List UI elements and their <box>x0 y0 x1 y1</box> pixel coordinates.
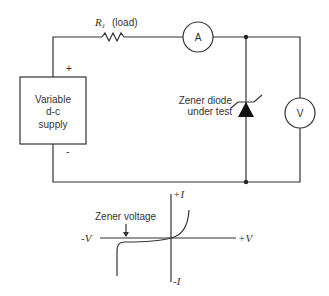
junction-dot-top <box>244 35 248 39</box>
supply-label-2: d-c <box>46 106 60 117</box>
zener-voltage-label: Zener voltage <box>95 211 157 222</box>
resistor-label: R1 <box>94 16 105 30</box>
axis-pos-i: +I <box>173 188 185 200</box>
axis-pos-v: +V <box>238 232 253 244</box>
voltmeter-label: V <box>297 108 304 119</box>
axis-neg-i: -I <box>173 275 182 287</box>
diode-label-1: Zener diode <box>179 95 233 106</box>
supply-label-3: supply <box>39 119 68 130</box>
plus-terminal: + <box>66 63 72 74</box>
minus-terminal: - <box>66 146 69 157</box>
axis-neg-v: -V <box>81 232 93 244</box>
resistor-icon <box>102 33 126 41</box>
junction-dot-bottom <box>244 180 248 184</box>
ammeter-label: A <box>195 32 202 43</box>
circuit-wires <box>53 37 300 182</box>
resistor-note: (load) <box>112 17 138 28</box>
arrow-icon <box>123 232 129 237</box>
diode-label-2: under test <box>188 106 233 117</box>
supply-label-1: Variable <box>35 94 71 105</box>
iv-graph <box>100 194 236 282</box>
zener-diode-icon <box>238 102 254 117</box>
zener-test-diagram: R1 (load) A V Variable d-c supply + - Ze… <box>0 0 329 296</box>
